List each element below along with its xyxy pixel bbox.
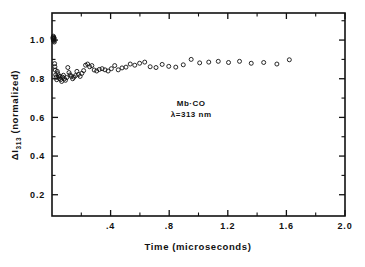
data-point: [124, 65, 128, 69]
data-point: [113, 64, 117, 68]
x-tick-label: 1.2: [220, 221, 235, 231]
y-axis-label: ΔI313 (normalized): [9, 70, 22, 160]
y-tick-label: 0.4: [30, 151, 45, 161]
data-point: [227, 60, 231, 64]
data-point: [143, 60, 147, 64]
data-point: [116, 68, 120, 72]
data-point: [216, 59, 220, 63]
figure-container: .4.81.21.62.0 0.20.40.60.81.0 Mb·COλ=313…: [0, 0, 365, 267]
scatter-plot: .4.81.21.62.0 0.20.40.60.81.0 Mb·COλ=313…: [0, 0, 365, 267]
data-point: [167, 64, 171, 68]
data-point: [181, 63, 185, 67]
data-point: [174, 65, 178, 69]
data-point: [198, 61, 202, 65]
data-point: [275, 62, 279, 66]
data-point: [238, 59, 242, 63]
data-point: [154, 66, 158, 70]
data-point: [287, 58, 291, 62]
x-tick-label: 1.6: [279, 221, 294, 231]
plot-annotations: Mb·COλ=313 nm: [171, 99, 212, 120]
data-point: [262, 60, 266, 64]
y-tick-label: 0.8: [30, 74, 45, 84]
data-point: [92, 68, 96, 72]
y-tick-label: 1.0: [30, 35, 45, 45]
x-tick-label: .8: [165, 221, 174, 231]
data-points: [51, 34, 291, 83]
data-point: [109, 67, 113, 71]
y-axis-tick-labels: 0.20.40.60.81.0: [30, 35, 45, 200]
data-point: [189, 57, 193, 61]
data-point: [120, 66, 124, 70]
annotation-label: Mb·CO: [177, 99, 206, 108]
x-tick-label: .4: [106, 221, 115, 231]
data-point: [160, 62, 164, 66]
x-axis-ticks: [81, 13, 345, 216]
y-axis-label-rest: (normalized): [9, 70, 20, 137]
x-axis-label: Time (microseconds): [145, 241, 252, 252]
y-tick-label: 0.2: [30, 190, 45, 200]
y-tick-label: 0.6: [30, 113, 45, 123]
y-axis-label-subscript: 313: [15, 137, 22, 150]
y-axis-label-main: ΔI: [9, 149, 20, 160]
data-point: [128, 62, 132, 66]
data-point: [249, 61, 253, 65]
data-point: [138, 61, 142, 65]
annotation-label: λ=313 nm: [171, 110, 212, 119]
data-point: [133, 63, 137, 67]
data-point: [148, 65, 152, 69]
x-tick-label: 2.0: [338, 221, 353, 231]
x-axis-tick-labels: .4.81.21.62.0: [106, 221, 352, 231]
data-point: [207, 60, 211, 64]
data-point: [66, 66, 70, 70]
y-axis-label-text: ΔI313 (normalized): [9, 70, 22, 160]
